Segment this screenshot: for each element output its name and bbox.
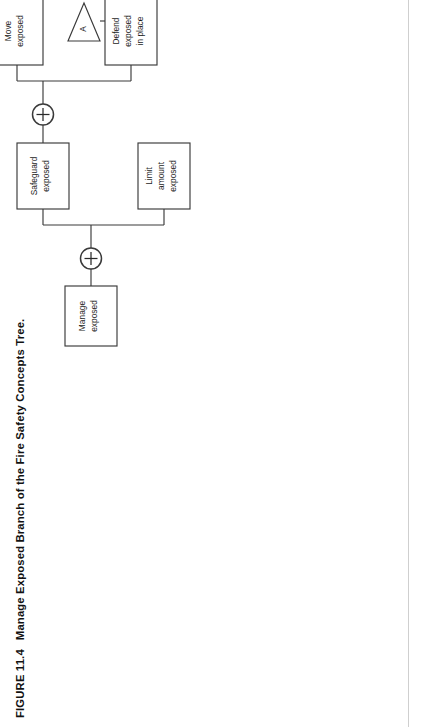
concepts-tree-diagram-lower: Maintain essential environment Defend th…: [0, 0, 421, 727]
figure-caption-text: Manage Exposed Branch of the Fire Safety…: [14, 319, 26, 641]
figure-number: FIGURE 11.4: [14, 649, 26, 718]
figure-caption: FIGURE 11.4Manage Exposed Branch of the …: [14, 319, 26, 718]
figure-canvas: Manage exposed Safeguard exposed Limit a…: [0, 0, 421, 727]
